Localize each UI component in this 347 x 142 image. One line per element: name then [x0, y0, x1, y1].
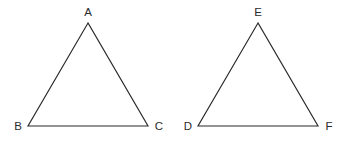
vertex-label-d: D — [184, 120, 192, 132]
vertex-label-a: A — [84, 6, 92, 18]
vertex-label-c: C — [155, 120, 163, 132]
triangle-def: E D F — [184, 6, 333, 132]
geometry-figure-canvas: A B C E D F — [0, 0, 347, 142]
triangle-abc: A B C — [14, 6, 163, 132]
vertex-label-b: B — [14, 120, 22, 132]
triangle-def-outline — [198, 23, 318, 126]
triangle-abc-outline — [28, 23, 148, 126]
vertex-label-e: E — [254, 6, 262, 18]
vertex-label-f: F — [325, 120, 332, 132]
